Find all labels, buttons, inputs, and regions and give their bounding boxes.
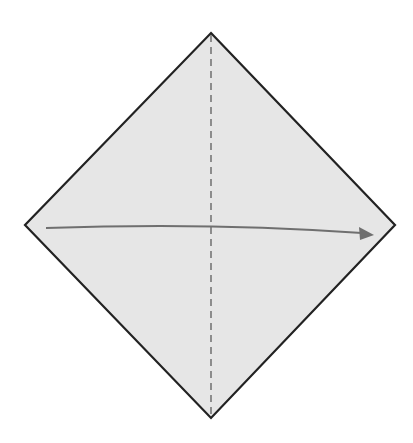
origami-diagram bbox=[0, 0, 413, 443]
